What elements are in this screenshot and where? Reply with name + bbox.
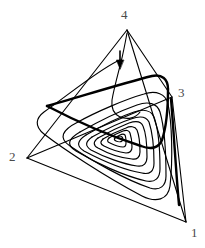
vertex-label-2: 2: [9, 150, 16, 163]
plot-background: [0, 0, 205, 248]
simplex-phase-portrait-figure: 4 3 2 1: [0, 0, 205, 248]
vertex-label-4: 4: [121, 8, 128, 21]
vertex-label-3: 3: [178, 86, 185, 99]
plot-canvas: [0, 0, 205, 248]
vertex-label-1: 1: [191, 226, 198, 239]
